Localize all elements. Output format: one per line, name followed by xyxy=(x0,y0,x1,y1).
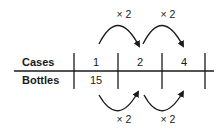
arrow-icon xyxy=(99,92,138,111)
bottom-multiplier-2: × 2 xyxy=(153,113,183,125)
top-arrows xyxy=(99,25,183,46)
cases-value-2: 2 xyxy=(118,56,162,68)
top-multiplier-2: × 2 xyxy=(153,8,183,20)
bottles-value-1: 15 xyxy=(74,74,118,86)
bottom-arrows xyxy=(99,92,183,111)
arrow-icon xyxy=(144,92,183,111)
arrow-icon xyxy=(99,25,139,46)
row-label-bottles: Bottles xyxy=(22,74,59,86)
arrow-icon xyxy=(143,25,183,46)
cases-value-3: 4 xyxy=(162,56,206,68)
top-multiplier-1: × 2 xyxy=(109,8,139,20)
bottom-multiplier-1: × 2 xyxy=(109,113,139,125)
cases-value-1: 1 xyxy=(74,56,118,68)
row-label-cases: Cases xyxy=(22,56,54,68)
